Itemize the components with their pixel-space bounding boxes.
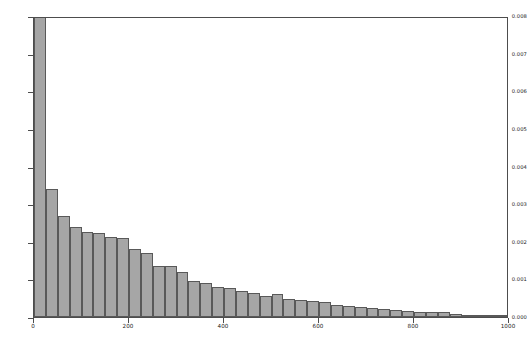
- histogram-bar: [129, 249, 141, 317]
- histogram-bar: [378, 309, 390, 317]
- x-axis-tick-label: 1000: [493, 324, 523, 330]
- histogram-bar: [153, 266, 165, 317]
- histogram-bar: [402, 311, 414, 317]
- histogram-bar: [117, 238, 129, 317]
- histogram-bar: [272, 294, 284, 317]
- histogram-bar: [367, 308, 379, 317]
- histogram-bar: [390, 310, 402, 317]
- histogram-bar: [331, 305, 343, 317]
- histogram-bar: [236, 291, 248, 317]
- histogram-bar: [82, 232, 94, 317]
- histogram-bar: [141, 253, 153, 317]
- histogram-bar: [177, 272, 189, 317]
- x-axis-tick-label: 600: [303, 324, 333, 330]
- histogram-bar: [414, 312, 426, 317]
- histogram-bar: [93, 233, 105, 317]
- histogram-bar: [462, 315, 474, 317]
- histogram-bar: [70, 227, 82, 317]
- histogram-bar: [212, 287, 224, 317]
- histogram-bar: [260, 296, 272, 317]
- histogram-figure: 0.0000.0010.0020.0030.0040.0050.0060.007…: [0, 0, 527, 351]
- plot-area: [33, 17, 508, 318]
- histogram-bars: [34, 18, 507, 317]
- histogram-bar: [248, 293, 260, 317]
- histogram-bar: [450, 314, 462, 317]
- histogram-bar: [485, 315, 497, 317]
- histogram-bar: [224, 288, 236, 317]
- histogram-bar: [497, 315, 508, 317]
- histogram-bar: [34, 17, 46, 317]
- histogram-bar: [473, 315, 485, 317]
- histogram-bar: [438, 312, 450, 317]
- histogram-bar: [426, 312, 438, 317]
- x-axis-tick-label: 200: [113, 324, 143, 330]
- histogram-bar: [105, 237, 117, 317]
- histogram-bar: [319, 302, 331, 317]
- x-axis-tick-label: 800: [398, 324, 428, 330]
- histogram-bar: [355, 307, 367, 317]
- x-axis-tick-label: 400: [208, 324, 238, 330]
- histogram-bar: [283, 299, 295, 317]
- histogram-bar: [58, 216, 70, 317]
- histogram-bar: [343, 306, 355, 317]
- histogram-bar: [188, 281, 200, 317]
- histogram-bar: [200, 283, 212, 317]
- x-axis-tick-label: 0: [18, 324, 48, 330]
- histogram-bar: [307, 301, 319, 317]
- histogram-bar: [46, 189, 58, 317]
- histogram-bar: [165, 266, 177, 317]
- histogram-bar: [295, 300, 307, 317]
